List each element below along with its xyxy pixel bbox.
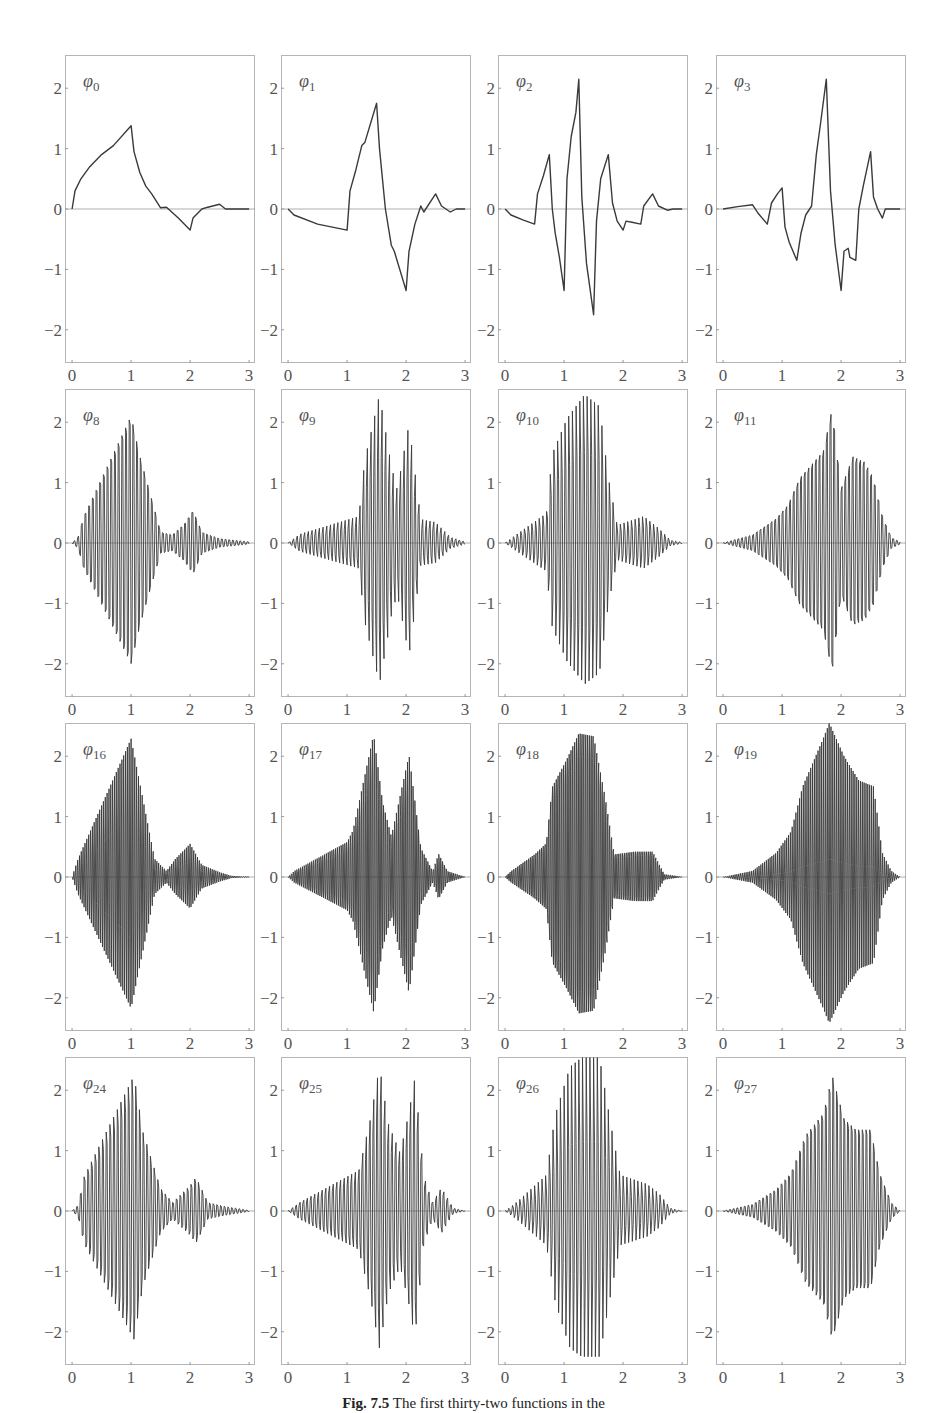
svg-text:φ1: φ1 bbox=[299, 71, 315, 94]
plot-svg: 210−1−20123φ8 bbox=[65, 389, 255, 697]
svg-text:0: 0 bbox=[284, 700, 293, 719]
svg-text:−2: −2 bbox=[477, 989, 495, 1008]
plot-svg: 210−1−20123φ19 bbox=[716, 723, 906, 1031]
svg-text:2: 2 bbox=[270, 79, 279, 98]
plot-panel-phi-2: 210−1−20123φ2 bbox=[498, 55, 688, 363]
svg-text:2: 2 bbox=[837, 1368, 846, 1387]
svg-text:2: 2 bbox=[619, 700, 628, 719]
svg-text:3: 3 bbox=[461, 366, 470, 385]
svg-text:0: 0 bbox=[270, 534, 279, 553]
svg-text:1: 1 bbox=[343, 1034, 352, 1053]
svg-text:3: 3 bbox=[245, 366, 254, 385]
svg-text:0: 0 bbox=[501, 366, 510, 385]
svg-text:0: 0 bbox=[68, 1368, 77, 1387]
svg-text:−1: −1 bbox=[695, 594, 713, 613]
svg-text:−2: −2 bbox=[477, 321, 495, 340]
svg-text:2: 2 bbox=[705, 1081, 714, 1100]
svg-text:0: 0 bbox=[719, 700, 728, 719]
svg-text:3: 3 bbox=[678, 1368, 687, 1387]
svg-text:0: 0 bbox=[501, 700, 510, 719]
svg-text:0: 0 bbox=[68, 366, 77, 385]
svg-text:3: 3 bbox=[245, 700, 254, 719]
svg-text:−1: −1 bbox=[44, 928, 62, 947]
svg-text:0: 0 bbox=[719, 366, 728, 385]
svg-text:2: 2 bbox=[54, 79, 63, 98]
svg-text:1: 1 bbox=[270, 808, 279, 827]
plot-svg: 210−1−20123φ0 bbox=[65, 55, 255, 363]
svg-text:φ26: φ26 bbox=[516, 1073, 539, 1096]
plot-svg: 210−1−20123φ17 bbox=[281, 723, 471, 1031]
svg-text:−1: −1 bbox=[477, 1262, 495, 1281]
svg-text:−1: −1 bbox=[477, 928, 495, 947]
svg-text:2: 2 bbox=[487, 79, 496, 98]
svg-text:0: 0 bbox=[719, 1034, 728, 1053]
svg-text:0: 0 bbox=[719, 1368, 728, 1387]
svg-text:2: 2 bbox=[837, 700, 846, 719]
plot-svg: 210−1−20123φ1 bbox=[281, 55, 471, 363]
plot-panel-phi-10: 210−1−20123φ10 bbox=[498, 389, 688, 697]
caption-text: The first thirty-two functions in the bbox=[393, 1395, 605, 1411]
svg-text:−1: −1 bbox=[260, 928, 278, 947]
svg-text:2: 2 bbox=[402, 1034, 411, 1053]
svg-text:2: 2 bbox=[705, 79, 714, 98]
svg-text:2: 2 bbox=[619, 1034, 628, 1053]
svg-text:0: 0 bbox=[705, 1202, 714, 1221]
svg-text:1: 1 bbox=[778, 1368, 787, 1387]
svg-text:1: 1 bbox=[778, 366, 787, 385]
svg-text:0: 0 bbox=[705, 200, 714, 219]
plot-svg: 210−1−20123φ27 bbox=[716, 1057, 906, 1365]
svg-text:3: 3 bbox=[461, 700, 470, 719]
svg-text:1: 1 bbox=[127, 1368, 136, 1387]
plot-svg: 210−1−20123φ25 bbox=[281, 1057, 471, 1365]
svg-text:1: 1 bbox=[54, 474, 63, 493]
svg-text:0: 0 bbox=[68, 700, 77, 719]
svg-text:0: 0 bbox=[487, 534, 496, 553]
svg-text:−2: −2 bbox=[695, 1323, 713, 1342]
svg-text:φ18: φ18 bbox=[516, 739, 539, 762]
plot-panel-phi-18: 210−1−20123φ18 bbox=[498, 723, 688, 1031]
svg-text:1: 1 bbox=[705, 808, 714, 827]
svg-text:1: 1 bbox=[560, 700, 569, 719]
svg-text:−2: −2 bbox=[44, 989, 62, 1008]
svg-text:0: 0 bbox=[284, 366, 293, 385]
svg-text:2: 2 bbox=[619, 366, 628, 385]
svg-text:3: 3 bbox=[245, 1034, 254, 1053]
svg-text:−1: −1 bbox=[44, 1262, 62, 1281]
svg-text:3: 3 bbox=[896, 1034, 905, 1053]
svg-text:3: 3 bbox=[678, 366, 687, 385]
svg-text:−2: −2 bbox=[260, 655, 278, 674]
svg-text:0: 0 bbox=[68, 1034, 77, 1053]
svg-text:−1: −1 bbox=[44, 594, 62, 613]
svg-text:2: 2 bbox=[487, 1081, 496, 1100]
svg-text:3: 3 bbox=[896, 366, 905, 385]
plot-panel-phi-3: 210−1−20123φ3 bbox=[716, 55, 906, 363]
svg-text:1: 1 bbox=[54, 808, 63, 827]
plot-svg: 210−1−20123φ2 bbox=[498, 55, 688, 363]
svg-text:2: 2 bbox=[54, 1081, 63, 1100]
plot-panel-phi-11: 210−1−20123φ11 bbox=[716, 389, 906, 697]
svg-text:−2: −2 bbox=[44, 321, 62, 340]
svg-text:0: 0 bbox=[487, 868, 496, 887]
svg-text:1: 1 bbox=[487, 474, 496, 493]
svg-text:1: 1 bbox=[705, 140, 714, 159]
svg-text:2: 2 bbox=[402, 366, 411, 385]
svg-text:0: 0 bbox=[54, 534, 63, 553]
svg-text:−1: −1 bbox=[477, 594, 495, 613]
svg-text:2: 2 bbox=[487, 747, 496, 766]
svg-text:3: 3 bbox=[461, 1034, 470, 1053]
svg-text:φ8: φ8 bbox=[83, 405, 99, 428]
svg-text:−1: −1 bbox=[695, 260, 713, 279]
svg-text:1: 1 bbox=[343, 700, 352, 719]
plot-svg: 210−1−20123φ10 bbox=[498, 389, 688, 697]
svg-text:1: 1 bbox=[560, 366, 569, 385]
svg-text:φ9: φ9 bbox=[299, 405, 315, 428]
svg-text:0: 0 bbox=[54, 1202, 63, 1221]
plot-svg: 210−1−20123φ9 bbox=[281, 389, 471, 697]
svg-text:−2: −2 bbox=[477, 1323, 495, 1342]
svg-text:2: 2 bbox=[270, 747, 279, 766]
svg-text:1: 1 bbox=[127, 366, 136, 385]
svg-text:φ17: φ17 bbox=[299, 739, 322, 762]
svg-text:2: 2 bbox=[487, 413, 496, 432]
svg-text:0: 0 bbox=[705, 868, 714, 887]
svg-text:−2: −2 bbox=[260, 1323, 278, 1342]
